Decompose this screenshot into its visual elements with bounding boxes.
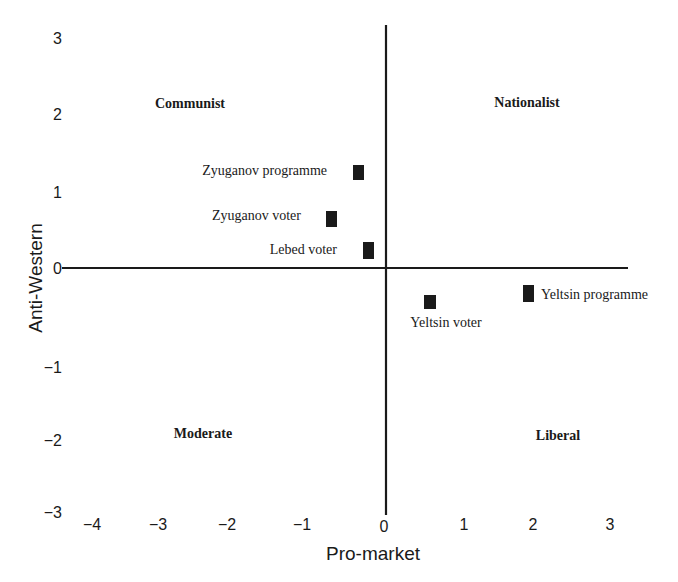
data-point-yeltsin-voter: Yeltsin voter xyxy=(410,295,482,330)
x-tick: 3 xyxy=(606,516,615,533)
x-tick: −3 xyxy=(149,516,167,533)
quadrant-label-communist: Communist xyxy=(155,96,225,111)
x-tick: 2 xyxy=(529,516,538,533)
data-point-lebed-voter: Lebed voter xyxy=(270,242,374,259)
y-tick: 0 xyxy=(53,260,62,277)
quadrant-label-moderate: Moderate xyxy=(174,426,232,441)
data-point-yeltsin-programme: Yeltsin programme xyxy=(523,285,648,302)
y-tick: 3 xyxy=(53,30,62,47)
square-marker-icon xyxy=(326,211,337,227)
point-label: Zyuganov programme xyxy=(202,163,327,178)
x-tick: −1 xyxy=(293,516,311,533)
point-label: Zyuganov voter xyxy=(212,208,301,223)
x-tick: −4 xyxy=(83,516,101,533)
data-point-zyuganov-programme: Zyuganov programme xyxy=(202,163,364,180)
point-label: Yeltsin programme xyxy=(541,287,648,302)
point-label: Lebed voter xyxy=(270,242,338,257)
data-point-zyuganov-voter: Zyuganov voter xyxy=(212,208,337,227)
quadrant-label-nationalist: Nationalist xyxy=(494,95,560,110)
y-tick: 2 xyxy=(53,106,62,123)
x-tick: 1 xyxy=(460,516,469,533)
y-tick: −2 xyxy=(44,432,62,449)
square-marker-icon xyxy=(363,242,374,259)
x-axis-title: Pro-market xyxy=(326,543,421,564)
square-marker-icon xyxy=(353,165,364,180)
y-tick-labels: 3 2 1 0 −1 −2 −3 xyxy=(44,30,62,521)
x-tick: 0 xyxy=(380,518,389,535)
x-tick-labels: −4 −3 −2 −1 0 1 2 3 xyxy=(83,516,615,535)
y-tick: 1 xyxy=(53,184,62,201)
point-label: Yeltsin voter xyxy=(410,315,482,330)
y-tick: −3 xyxy=(44,504,62,521)
y-tick: −1 xyxy=(44,359,62,376)
x-tick: −2 xyxy=(218,516,236,533)
y-axis-title: Anti-Western xyxy=(25,223,46,332)
square-marker-icon xyxy=(523,285,534,302)
square-marker-icon xyxy=(424,295,436,309)
quadrant-label-liberal: Liberal xyxy=(536,428,580,443)
scatter-chart: 3 2 1 0 −1 −2 −3 −4 −3 −2 −1 0 1 2 3 Pro… xyxy=(0,0,678,582)
